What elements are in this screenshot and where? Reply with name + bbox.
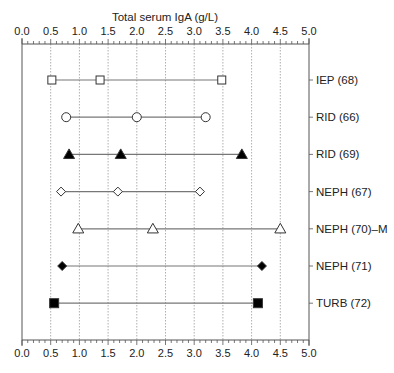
top-axis-ticks: 0.00.51.01.52.02.53.03.54.04.55.0 bbox=[14, 25, 316, 44]
x-tick-label-bottom: 0.5 bbox=[43, 347, 58, 359]
row-label: RID (66) bbox=[316, 111, 360, 123]
x-tick-label-top: 3.0 bbox=[187, 25, 202, 37]
x-tick-label-top: 1.0 bbox=[72, 25, 87, 37]
diamond-marker-icon bbox=[113, 187, 122, 196]
data-row: RID (66) bbox=[62, 111, 360, 123]
triangle-marker-icon bbox=[64, 149, 75, 159]
square-marker-icon bbox=[96, 76, 104, 84]
x-tick-label-top: 1.5 bbox=[100, 25, 115, 37]
x-tick-label-bottom: 1.0 bbox=[72, 347, 87, 359]
square-marker-icon bbox=[48, 76, 56, 84]
triangle-marker-icon bbox=[275, 223, 286, 233]
square-marker-icon bbox=[218, 76, 226, 84]
row-label: IEP (68) bbox=[316, 74, 358, 86]
x-tick-label-bottom: 2.5 bbox=[158, 347, 173, 359]
x-tick-label-top: 2.0 bbox=[129, 25, 144, 37]
x-tick-label-bottom: 0.0 bbox=[14, 347, 29, 359]
diamond-marker-icon bbox=[257, 262, 266, 271]
circle-marker-icon bbox=[132, 113, 141, 122]
data-row: TURB (72) bbox=[50, 297, 371, 309]
diamond-marker-icon bbox=[195, 187, 204, 196]
row-label: NEPH (67) bbox=[316, 186, 372, 198]
triangle-marker-icon bbox=[115, 149, 126, 159]
data-row: IEP (68) bbox=[48, 74, 358, 86]
circle-marker-icon bbox=[62, 113, 71, 122]
range-plot: Total serum IgA (g/L) 0.00.51.01.52.02.5… bbox=[0, 0, 394, 373]
square-marker-icon bbox=[50, 299, 59, 308]
x-tick-label-bottom: 5.0 bbox=[301, 347, 316, 359]
x-tick-label-top: 0.0 bbox=[14, 25, 29, 37]
data-row: NEPH (71) bbox=[58, 260, 372, 272]
triangle-marker-icon bbox=[147, 223, 158, 233]
triangle-marker-icon bbox=[73, 223, 84, 233]
diamond-marker-icon bbox=[57, 187, 66, 196]
x-tick-label-bottom: 3.5 bbox=[215, 347, 230, 359]
x-tick-label-top: 4.0 bbox=[244, 25, 259, 37]
row-label: RID (69) bbox=[316, 148, 360, 160]
triangle-marker-icon bbox=[236, 149, 247, 159]
x-tick-label-top: 0.5 bbox=[43, 25, 58, 37]
x-tick-label-bottom: 2.0 bbox=[129, 347, 144, 359]
data-row: NEPH (67) bbox=[57, 186, 372, 198]
row-label: TURB (72) bbox=[316, 297, 371, 309]
row-label: NEPH (70)–M bbox=[316, 223, 388, 235]
x-tick-label-top: 3.5 bbox=[215, 25, 230, 37]
x-tick-label-top: 2.5 bbox=[158, 25, 173, 37]
square-marker-icon bbox=[253, 299, 262, 308]
x-axis-title: Total serum IgA (g/L) bbox=[112, 11, 218, 23]
x-tick-label-bottom: 3.0 bbox=[187, 347, 202, 359]
data-row: NEPH (70)–M bbox=[73, 223, 388, 235]
data-rows: IEP (68)RID (66)RID (69)NEPH (67)NEPH (7… bbox=[48, 74, 388, 309]
x-tick-label-top: 5.0 bbox=[301, 25, 316, 37]
x-tick-label-bottom: 1.5 bbox=[100, 347, 115, 359]
diamond-marker-icon bbox=[58, 262, 67, 271]
bottom-axis-ticks: 0.00.51.01.52.02.53.03.54.04.55.0 bbox=[14, 340, 316, 359]
x-tick-label-top: 4.5 bbox=[273, 25, 288, 37]
x-tick-label-bottom: 4.5 bbox=[273, 347, 288, 359]
row-label: NEPH (71) bbox=[316, 260, 372, 272]
x-tick-label-bottom: 4.0 bbox=[244, 347, 259, 359]
circle-marker-icon bbox=[201, 113, 210, 122]
